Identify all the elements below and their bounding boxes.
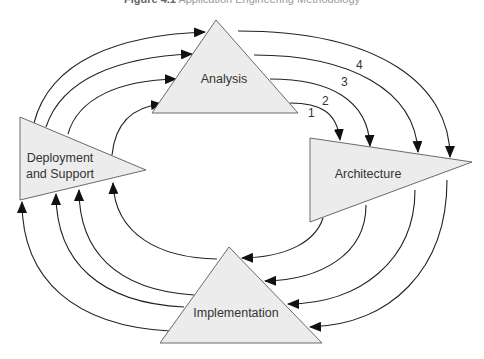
methodology-diagram: 1 2 3 4 Analysis Architecture Deployment… — [0, 0, 484, 359]
node-architecture: Architecture — [310, 138, 472, 222]
architecture-label: Architecture — [335, 167, 402, 181]
iteration-label-1: 1 — [308, 106, 315, 120]
arc-arch-impl-1 — [242, 218, 323, 258]
deployment-label-line2: and Support — [26, 167, 95, 181]
deployment-label-line1: Deployment — [27, 151, 94, 165]
arc-impl-deploy-2 — [79, 190, 194, 295]
iteration-label-3: 3 — [341, 75, 348, 89]
arc-impl-deploy-1 — [113, 183, 217, 259]
implementation-triangle — [160, 247, 322, 343]
iteration-label-2: 2 — [322, 94, 329, 108]
arc-analysis-arch-1 — [290, 103, 340, 140]
node-implementation: Implementation — [160, 247, 322, 343]
iteration-label-4: 4 — [356, 58, 363, 72]
arc-impl-deploy-4 — [22, 202, 170, 331]
implementation-label: Implementation — [193, 306, 279, 320]
node-deployment-support: Deployment and Support — [20, 117, 146, 200]
analysis-label: Analysis — [201, 72, 248, 86]
